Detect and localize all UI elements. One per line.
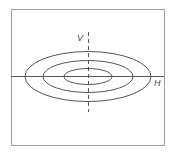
horizontal-axis-label: H — [154, 78, 161, 88]
ellipse-diagram: V H — [0, 0, 170, 157]
vertical-axis-label: V — [77, 33, 84, 43]
